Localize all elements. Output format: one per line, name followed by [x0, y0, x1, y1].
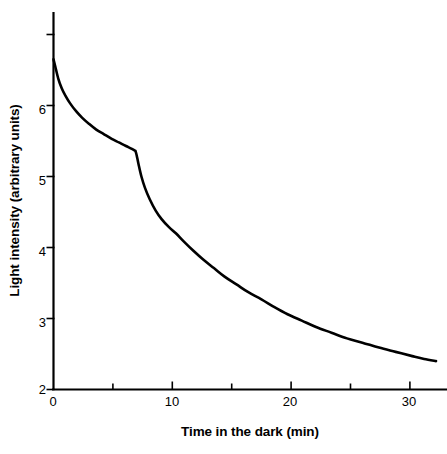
y-tick-label-5: 5 [24, 173, 46, 188]
intensity-decay-curve [54, 59, 437, 361]
x-tick-label-20: 20 [277, 394, 303, 409]
x-axis-ticks [113, 382, 410, 390]
plot-area [0, 0, 447, 454]
x-tick-label-30: 30 [396, 394, 422, 409]
y-tick-label-3: 3 [24, 315, 46, 330]
y-tick-label-6: 6 [24, 102, 46, 117]
x-tick-label-10: 10 [159, 394, 185, 409]
y-tick-label-4: 4 [24, 244, 46, 259]
x-axis-label: Time in the dark (min) [53, 424, 447, 439]
x-tick-label-0: 0 [40, 394, 66, 409]
chart-figure: Light intensity (arbitrary units) Time i… [0, 0, 447, 454]
